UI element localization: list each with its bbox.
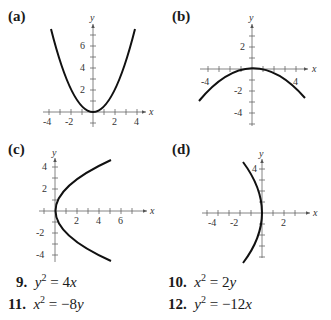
exercise-9: 9. y2 = 4x — [16, 272, 77, 291]
x-tick-label: 6 — [118, 215, 123, 226]
y-label-c: y — [51, 147, 57, 158]
y-tick-label: -4 — [36, 249, 44, 260]
x-label-c: x — [149, 205, 155, 216]
x-tick-label: 2 — [74, 215, 79, 226]
x-tick-label: 4 — [293, 76, 298, 87]
x-tick-label: 4 — [134, 116, 139, 127]
x-tick-label: 2 — [281, 217, 286, 228]
y-label-b: y — [248, 12, 254, 23]
x-tick-label: -2 — [230, 217, 238, 228]
x-label-d: x — [312, 207, 318, 218]
y-label-a: y — [89, 12, 95, 23]
exercise-10: 10. x2 = 2y — [168, 272, 236, 291]
y-tick-label: 4 — [252, 163, 257, 174]
curve-c — [56, 160, 112, 261]
graph-b — [200, 24, 308, 126]
curve-d — [243, 162, 262, 263]
y-tick-label: -2 — [234, 85, 242, 96]
x-tick-label: -2 — [65, 116, 73, 127]
y-tick-label: 2 — [80, 84, 85, 95]
graphs-canvas: x y -4 -2 2 4 2 4 6 x y -4 4 2 -2 -4 — [0, 0, 331, 270]
x-label-a: x — [148, 106, 154, 117]
y-tick-label: 2 — [240, 41, 245, 52]
y-tick-label: -4 — [234, 107, 242, 118]
x-tick-label: 2 — [112, 116, 117, 127]
y-tick-label: 6 — [80, 40, 85, 51]
y-tick-label: 4 — [42, 161, 47, 172]
x-tick-label: 4 — [96, 215, 101, 226]
x-label-b: x — [311, 63, 317, 74]
x-tick-label: -4 — [43, 116, 51, 127]
exercise-11: 11. x2 = −8y — [8, 294, 84, 313]
y-tick-label: 4 — [80, 62, 85, 73]
x-tick-label: -4 — [208, 217, 216, 228]
y-tick-label: -2 — [36, 227, 44, 238]
exercise-12: 12. y2 = −12x — [168, 294, 252, 313]
y-label-d: y — [258, 148, 264, 159]
y-tick-label: 2 — [42, 183, 47, 194]
x-tick-label: -4 — [201, 76, 209, 87]
